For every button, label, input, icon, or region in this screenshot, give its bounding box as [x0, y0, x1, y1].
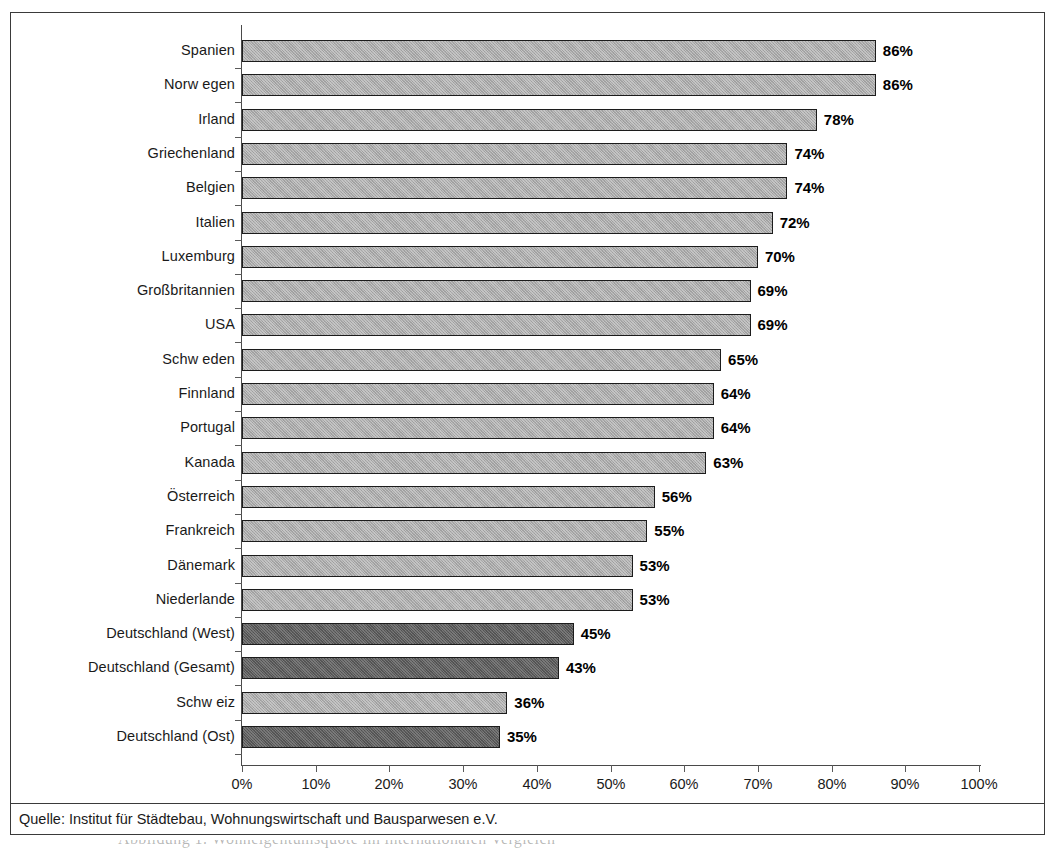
- bar-row[interactable]: 36%: [242, 692, 979, 714]
- bar-value-label: 65%: [728, 351, 758, 369]
- category-tick: [235, 171, 242, 172]
- bar[interactable]: [242, 74, 876, 96]
- bar-value-label: 64%: [721, 385, 751, 403]
- category-axis-labels: SpanienNorw egenIrlandGriechenlandBelgie…: [11, 13, 235, 770]
- x-axis-tick-label: 100%: [944, 776, 1014, 792]
- bar-row[interactable]: 65%: [242, 349, 979, 371]
- category-tick: [235, 68, 242, 69]
- x-axis-tick: [758, 765, 759, 772]
- bar[interactable]: [242, 486, 655, 508]
- bar[interactable]: [242, 383, 714, 405]
- bar-value-label: 86%: [883, 42, 913, 60]
- bar-value-label: 36%: [514, 694, 544, 712]
- category-label: Dänemark: [15, 558, 235, 572]
- category-label: Portugal: [15, 420, 235, 434]
- x-axis-tick: [242, 765, 243, 772]
- bar-row[interactable]: 78%: [242, 109, 979, 131]
- bar[interactable]: [242, 246, 758, 268]
- bar-row[interactable]: 35%: [242, 726, 979, 748]
- category-label: Schw eden: [15, 352, 235, 366]
- category-tick: [235, 514, 242, 515]
- bar-row[interactable]: 53%: [242, 555, 979, 577]
- source-divider: [11, 803, 1044, 804]
- x-axis-tick-label: 30%: [428, 776, 498, 792]
- bar-value-label: 69%: [758, 282, 788, 300]
- bar-row[interactable]: 64%: [242, 383, 979, 405]
- bar-value-label: 53%: [640, 591, 670, 609]
- bar-row[interactable]: 74%: [242, 143, 979, 165]
- x-axis-tick-label: 90%: [870, 776, 940, 792]
- bar-row[interactable]: 70%: [242, 246, 979, 268]
- bar[interactable]: [242, 555, 633, 577]
- bar[interactable]: [242, 212, 773, 234]
- bar-value-label: 45%: [581, 625, 611, 643]
- category-tick: [235, 274, 242, 275]
- x-axis-tick: [537, 765, 538, 772]
- category-label: Finnland: [15, 386, 235, 400]
- bar-value-label: 69%: [758, 316, 788, 334]
- bar[interactable]: [242, 40, 876, 62]
- category-tick: [235, 754, 242, 755]
- bar-row[interactable]: 86%: [242, 40, 979, 62]
- bar[interactable]: [242, 589, 633, 611]
- bar-value-label: 53%: [640, 557, 670, 575]
- category-label: Spanien: [15, 43, 235, 57]
- bar-row[interactable]: 55%: [242, 520, 979, 542]
- category-tick: [235, 308, 242, 309]
- bar[interactable]: [242, 726, 500, 748]
- category-tick: [235, 480, 242, 481]
- bar[interactable]: [242, 143, 787, 165]
- category-label: Deutschland (West): [15, 626, 235, 640]
- category-tick: [235, 651, 242, 652]
- category-label: USA: [15, 317, 235, 331]
- bar[interactable]: [242, 314, 751, 336]
- bar-value-label: 86%: [883, 76, 913, 94]
- category-label: Italien: [15, 215, 235, 229]
- chart-frame: SpanienNorw egenIrlandGriechenlandBelgie…: [10, 12, 1045, 835]
- bar-row[interactable]: 45%: [242, 623, 979, 645]
- bar[interactable]: [242, 452, 706, 474]
- category-label: Großbritannien: [15, 283, 235, 297]
- x-axis-tick: [832, 765, 833, 772]
- bar-row[interactable]: 63%: [242, 452, 979, 474]
- bar-row[interactable]: 64%: [242, 417, 979, 439]
- figure-caption-text: Abbildung 1: Wohneigentumsquote im inter…: [118, 840, 555, 849]
- bar[interactable]: [242, 623, 574, 645]
- category-label: Griechenland: [15, 146, 235, 160]
- category-label: Österreich: [15, 489, 235, 503]
- bar-row[interactable]: 56%: [242, 486, 979, 508]
- bar-row[interactable]: 69%: [242, 280, 979, 302]
- bar[interactable]: [242, 177, 787, 199]
- category-tick: [235, 720, 242, 721]
- category-tick: [235, 137, 242, 138]
- bar-value-label: 35%: [507, 728, 537, 746]
- bar[interactable]: [242, 657, 559, 679]
- category-tick: [235, 445, 242, 446]
- x-axis-tick-label: 80%: [797, 776, 867, 792]
- plot-area: SpanienNorw egenIrlandGriechenlandBelgie…: [11, 13, 1046, 770]
- bar[interactable]: [242, 280, 751, 302]
- bar-value-label: 74%: [794, 145, 824, 163]
- bar[interactable]: [242, 349, 721, 371]
- bar-row[interactable]: 74%: [242, 177, 979, 199]
- bar-row[interactable]: 86%: [242, 74, 979, 96]
- bar-value-label: 63%: [713, 454, 743, 472]
- category-tick: [235, 685, 242, 686]
- bar[interactable]: [242, 417, 714, 439]
- x-axis-tick: [389, 765, 390, 772]
- bar-row[interactable]: 43%: [242, 657, 979, 679]
- x-axis-tick: [979, 765, 980, 772]
- bar[interactable]: [242, 109, 817, 131]
- bar[interactable]: [242, 692, 507, 714]
- bar-row[interactable]: 69%: [242, 314, 979, 336]
- bar[interactable]: [242, 520, 647, 542]
- bar-row[interactable]: 72%: [242, 212, 979, 234]
- category-label: Luxemburg: [15, 249, 235, 263]
- category-label: Kanada: [15, 455, 235, 469]
- x-axis-tick-label: 20%: [354, 776, 424, 792]
- x-axis-tick-label: 10%: [281, 776, 351, 792]
- x-axis-tick: [611, 765, 612, 772]
- category-tick: [235, 377, 242, 378]
- x-axis-tick-label: 50%: [576, 776, 646, 792]
- bar-row[interactable]: 53%: [242, 589, 979, 611]
